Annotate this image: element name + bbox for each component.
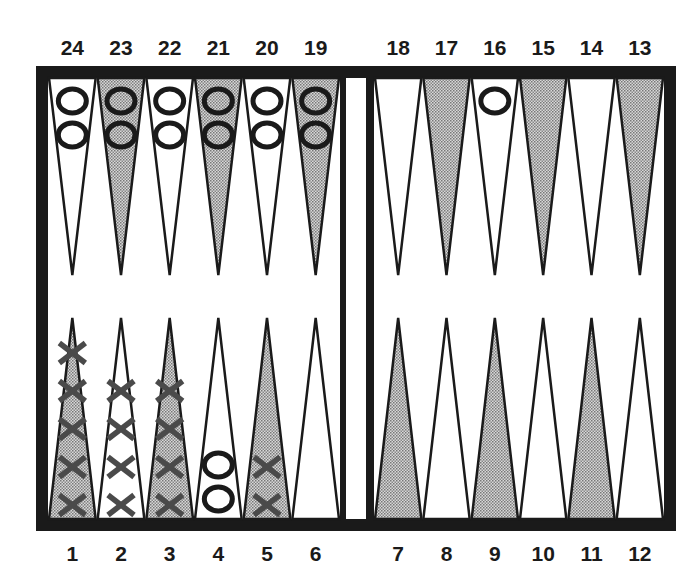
point-label-7: 7: [378, 543, 418, 564]
point-label-14: 14: [572, 37, 612, 58]
point-label-13: 13: [620, 37, 660, 58]
point-label-5: 5: [247, 543, 287, 564]
point-label-21: 21: [198, 37, 238, 58]
backgammon-board: [0, 0, 693, 588]
point-label-3: 3: [150, 543, 190, 564]
point-label-6: 6: [296, 543, 336, 564]
point-label-17: 17: [427, 37, 467, 58]
point-label-11: 11: [572, 543, 612, 564]
right-half-area: [374, 78, 664, 519]
point-label-16: 16: [475, 37, 515, 58]
bar: [346, 78, 366, 519]
point-label-23: 23: [101, 37, 141, 58]
point-label-4: 4: [198, 543, 238, 564]
point-label-8: 8: [427, 543, 467, 564]
point-label-15: 15: [523, 37, 563, 58]
point-label-12: 12: [620, 543, 660, 564]
point-label-22: 22: [150, 37, 190, 58]
point-label-20: 20: [247, 37, 287, 58]
left-half-area: [48, 78, 340, 519]
point-label-19: 19: [296, 37, 336, 58]
point-label-18: 18: [378, 37, 418, 58]
point-label-9: 9: [475, 543, 515, 564]
point-label-10: 10: [523, 543, 563, 564]
point-label-1: 1: [52, 543, 92, 564]
point-label-24: 24: [52, 37, 92, 58]
point-label-2: 2: [101, 543, 141, 564]
